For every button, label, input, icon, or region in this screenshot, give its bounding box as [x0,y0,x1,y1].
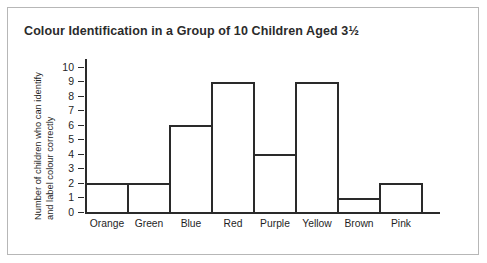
y-tick-label-text: 1 [58,192,74,203]
y-tick-label-text: 3 [58,163,74,174]
y-tick-label-text: 0 [58,207,74,218]
bar-red[interactable] [211,82,255,215]
y-tick-label-text: 2 [58,178,74,189]
y-tick-label-text: 5 [58,134,74,145]
y-tick-label: 1 [58,192,74,203]
y-tick-label: 0 [58,207,74,218]
y-tick-mark [78,110,84,111]
y-tick-label: 3 [58,163,74,174]
y-tick-label: 2 [58,178,74,189]
y-axis-title-line-1: Number of children who can identify [33,40,45,220]
y-tick-mark [78,139,84,140]
y-tick-mark [78,154,84,155]
y-tick-label-text: 9 [58,76,74,87]
y-tick-label: 9 [58,76,74,87]
y-tick-label-text: 10 [58,62,74,73]
y-tick-mark [78,81,84,82]
bar-brown[interactable] [337,198,381,215]
y-axis-title: Number of children who can identify and … [33,40,56,220]
y-tick-mark [78,96,84,97]
y-tick-label: 7 [58,105,74,116]
bar-green[interactable] [127,183,171,214]
y-axis-title-line-2: and label colour correctly [45,40,57,220]
y-tick-label: 10 [58,62,74,73]
y-tick-label-text: 7 [58,105,74,116]
y-tick-label-text: 6 [58,120,74,131]
y-tick-label: 6 [58,120,74,131]
bar-orange[interactable] [85,183,129,214]
y-tick-mark [78,168,84,169]
y-tick-label-text: 8 [58,91,74,102]
x-tick-label-red: Red [211,218,255,229]
screenshot-root: Colour Identification in a Group of 10 C… [0,0,487,263]
x-tick-label-pink: Pink [379,218,423,229]
y-tick-label: 5 [58,134,74,145]
bar-pink[interactable] [379,183,423,214]
bar-blue[interactable] [169,125,213,214]
y-tick-mark [78,212,84,213]
y-tick-label: 8 [58,91,74,102]
x-tick-label-brown: Brown [337,218,381,229]
y-tick-mark [78,125,84,126]
x-tick-label-yellow: Yellow [295,218,339,229]
y-tick-mark [78,183,84,184]
x-tick-label-blue: Blue [169,218,213,229]
bar-purple[interactable] [253,154,297,214]
x-tick-label-orange: Orange [85,218,129,229]
bar-yellow[interactable] [295,82,339,215]
plot-area: Number of children who can identify and … [0,0,487,263]
y-tick-mark [78,197,84,198]
y-tick-label-text: 4 [58,149,74,160]
x-tick-label-purple: Purple [253,218,297,229]
y-tick-label: 4 [58,149,74,160]
x-tick-label-green: Green [127,218,171,229]
y-tick-mark [78,67,84,68]
